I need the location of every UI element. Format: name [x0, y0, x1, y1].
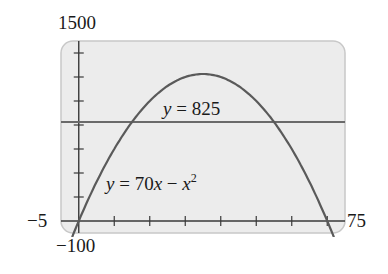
- ymin-label: −100: [56, 236, 95, 256]
- eq-exponent: 2: [191, 171, 197, 185]
- eq-coef: = 70: [114, 173, 153, 194]
- viewing-window-frame: [61, 41, 345, 233]
- graph-plot: [0, 0, 388, 274]
- xmax-label: 75: [347, 211, 366, 231]
- frame-rect: [61, 41, 345, 233]
- eq-var-x: x: [154, 173, 162, 194]
- curve-equation-label: y = 70x − x2: [106, 174, 197, 194]
- eq-rhs: = 825: [171, 98, 220, 119]
- xmin-label: −5: [27, 211, 47, 231]
- line-equation-label: y = 825: [163, 99, 220, 119]
- eq-minus: −: [162, 173, 182, 194]
- eq-var-x-squared: x: [182, 173, 190, 194]
- ymax-label: 1500: [58, 13, 96, 33]
